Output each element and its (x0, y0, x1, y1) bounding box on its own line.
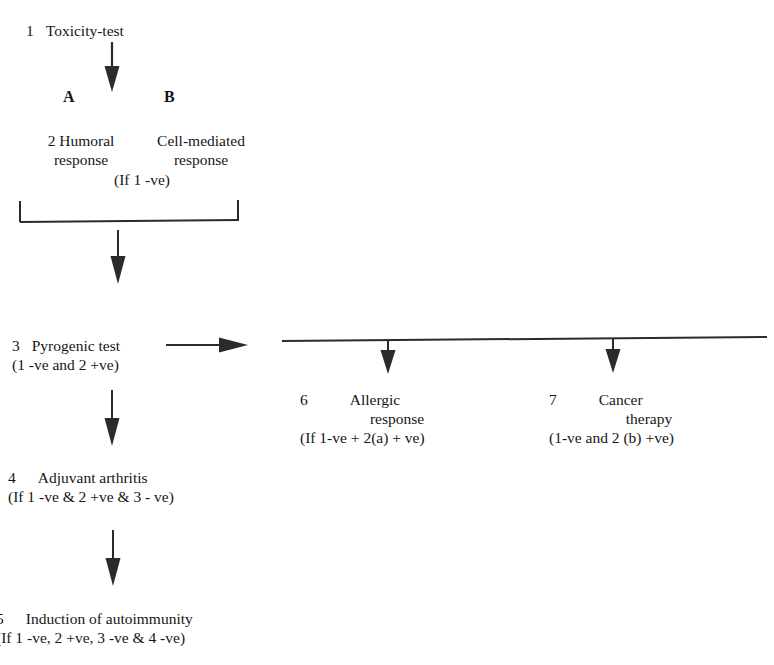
node-adjuvant-arthritis-number: 4 (8, 468, 16, 487)
node-response-pair-condition: (If 1 -ve) (22, 171, 262, 189)
node-induction-autoimmunity-condition: (If 1 -ve, 2 +ve, 3 -ve & 4 -ve) (0, 628, 193, 647)
node-induction-autoimmunity-line: 5Induction of autoimmunity (0, 609, 193, 628)
node-pyrogenic-test-label: Pyrogenic test (32, 337, 120, 354)
node-induction-autoimmunity-number: 5 (0, 609, 4, 628)
node-cell-mediated-response-line2: response (140, 150, 262, 169)
node-response-pair: 2 Humoral response Cell-mediated respons… (22, 131, 262, 169)
node-toxicity-test-line: 1Toxicity-test (26, 21, 124, 40)
node-allergic-response-condition: (If 1-ve + 2(a) + ve) (300, 428, 476, 447)
node-humoral-response-line2: response (22, 150, 140, 169)
node-cancer-therapy-line1: 7Cancer (549, 390, 725, 409)
node-cancer-therapy-line2: therapy (549, 409, 725, 428)
node-allergic-response-label: Allergic (350, 391, 401, 408)
arrow-bus-to-cancer (606, 339, 621, 373)
node-pyrogenic-test-number: 3 (12, 336, 20, 355)
node-pyrogenic-test-condition: (1 -ve and 2 +ve) (12, 355, 120, 374)
node-cancer-therapy: 7Cancer therapy (1-ve and 2 (b) +ve) (549, 390, 725, 448)
node-cell-mediated-response: Cell-mediated response (140, 131, 262, 169)
node-humoral-response: 2 Humoral response (22, 131, 140, 169)
node-humoral-response-number: 2 (48, 131, 56, 150)
node-allergic-response-line2: response (300, 409, 476, 428)
flowchart-canvas: 1Toxicity-test A B 2 Humoral response Ce… (0, 0, 774, 665)
node-cancer-therapy-condition: (1-ve and 2 (b) +ve) (549, 428, 725, 447)
node-humoral-response-line1: 2 Humoral (22, 131, 140, 150)
right-branch-bus-line (282, 337, 767, 341)
arrow-pyrogenic-to-right-branch (166, 338, 248, 353)
node-allergic-response: 6Allergic response (If 1-ve + 2(a) + ve) (300, 390, 476, 448)
arrow-branch-to-pyrogenic (111, 230, 126, 284)
node-humoral-response-label: Humoral (59, 132, 114, 149)
node-induction-autoimmunity: 5Induction of autoimmunity (If 1 -ve, 2 … (0, 609, 193, 647)
arrow-bus-to-allergic (381, 340, 396, 374)
arrow-pyrogenic-to-adjuvant (105, 390, 120, 446)
node-cancer-therapy-label: Cancer (599, 391, 643, 408)
node-toxicity-test-number: 1 (26, 21, 34, 40)
arrow-toxicity-to-branch (105, 42, 120, 92)
node-adjuvant-arthritis: 4Adjuvant arthritis (If 1 -ve & 2 +ve & … (8, 468, 174, 506)
node-adjuvant-arthritis-label: Adjuvant arthritis (38, 469, 148, 486)
arrow-adjuvant-to-autoimmunity (106, 530, 121, 586)
node-cell-mediated-response-line1: Cell-mediated (140, 131, 262, 150)
node-adjuvant-arthritis-line: 4Adjuvant arthritis (8, 468, 174, 487)
node-allergic-response-line1: 6Allergic (300, 390, 476, 409)
node-pyrogenic-test-line: 3Pyrogenic test (12, 336, 120, 355)
flowchart-connectors (0, 0, 774, 665)
node-allergic-response-number: 6 (300, 390, 308, 409)
branch-letter-a: A (63, 88, 75, 106)
node-pyrogenic-test: 3Pyrogenic test (1 -ve and 2 +ve) (12, 336, 120, 374)
node-toxicity-test-label: Toxicity-test (46, 22, 124, 39)
branch-letter-b: B (164, 88, 175, 106)
node-induction-autoimmunity-label: Induction of autoimmunity (26, 610, 193, 627)
node-toxicity-test: 1Toxicity-test (26, 21, 124, 40)
bracket-branch-join (20, 200, 238, 222)
node-cancer-therapy-number: 7 (549, 390, 557, 409)
node-adjuvant-arthritis-condition: (If 1 -ve & 2 +ve & 3 - ve) (8, 487, 174, 506)
